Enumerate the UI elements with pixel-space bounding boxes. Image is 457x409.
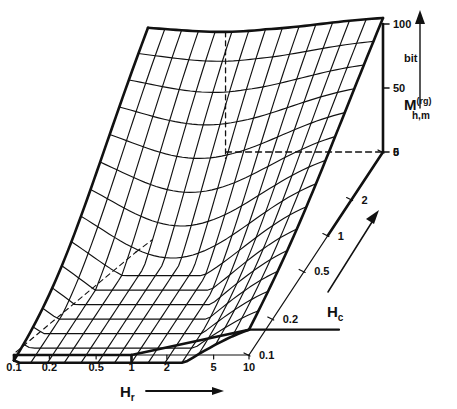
x-tick-label: 0.5 — [88, 361, 103, 373]
y-tick-label: 0.2 — [283, 313, 298, 325]
x-axis-title: Hr — [120, 383, 135, 403]
y-axis-title-main: H — [327, 303, 338, 320]
y-axis-tick-labels: 0.10.20.5125 — [259, 146, 399, 361]
z-axis-title-sub: h,m — [412, 110, 430, 121]
tick-label-layer: 0.10.20.512510 0.10.20.5125 100500 Hr Hc… — [0, 0, 457, 409]
x-tick-label: 5 — [211, 361, 217, 373]
x-axis-title-sub: r — [131, 392, 135, 403]
z-tick-label: 100 — [393, 18, 411, 30]
x-tick-label: 0.1 — [6, 361, 21, 373]
svg-text:Hr: Hr — [120, 383, 135, 403]
x-axis-title-main: H — [120, 383, 131, 400]
y-tick-label: 0.5 — [314, 265, 329, 277]
y-axis-title: Hc — [327, 303, 344, 323]
y-tick-label: 0.1 — [259, 349, 274, 361]
z-axis-unit-label: bit — [404, 52, 418, 64]
svg-text:Hc: Hc — [327, 303, 344, 323]
x-tick-label: 2 — [164, 361, 170, 373]
x-tick-label: 10 — [243, 361, 255, 373]
z-axis-title-sup: (rg) — [417, 96, 432, 106]
figure-3d-surface-plot: 0.10.20.512510 0.10.20.5125 100500 Hr Hc… — [0, 0, 457, 409]
x-tick-label: 1 — [128, 361, 134, 373]
z-axis-title: M(rg) h,m — [404, 96, 432, 121]
y-axis-title-sub: c — [338, 312, 344, 323]
y-tick-label: 1 — [338, 230, 344, 242]
x-axis-tick-labels: 0.10.20.512510 — [6, 361, 255, 373]
z-tick-label: 0 — [393, 146, 399, 158]
z-axis-tick-labels: 100500 — [393, 18, 411, 158]
z-tick-label: 50 — [393, 82, 405, 94]
x-tick-label: 0.2 — [42, 361, 57, 373]
y-tick-label: 2 — [362, 194, 368, 206]
